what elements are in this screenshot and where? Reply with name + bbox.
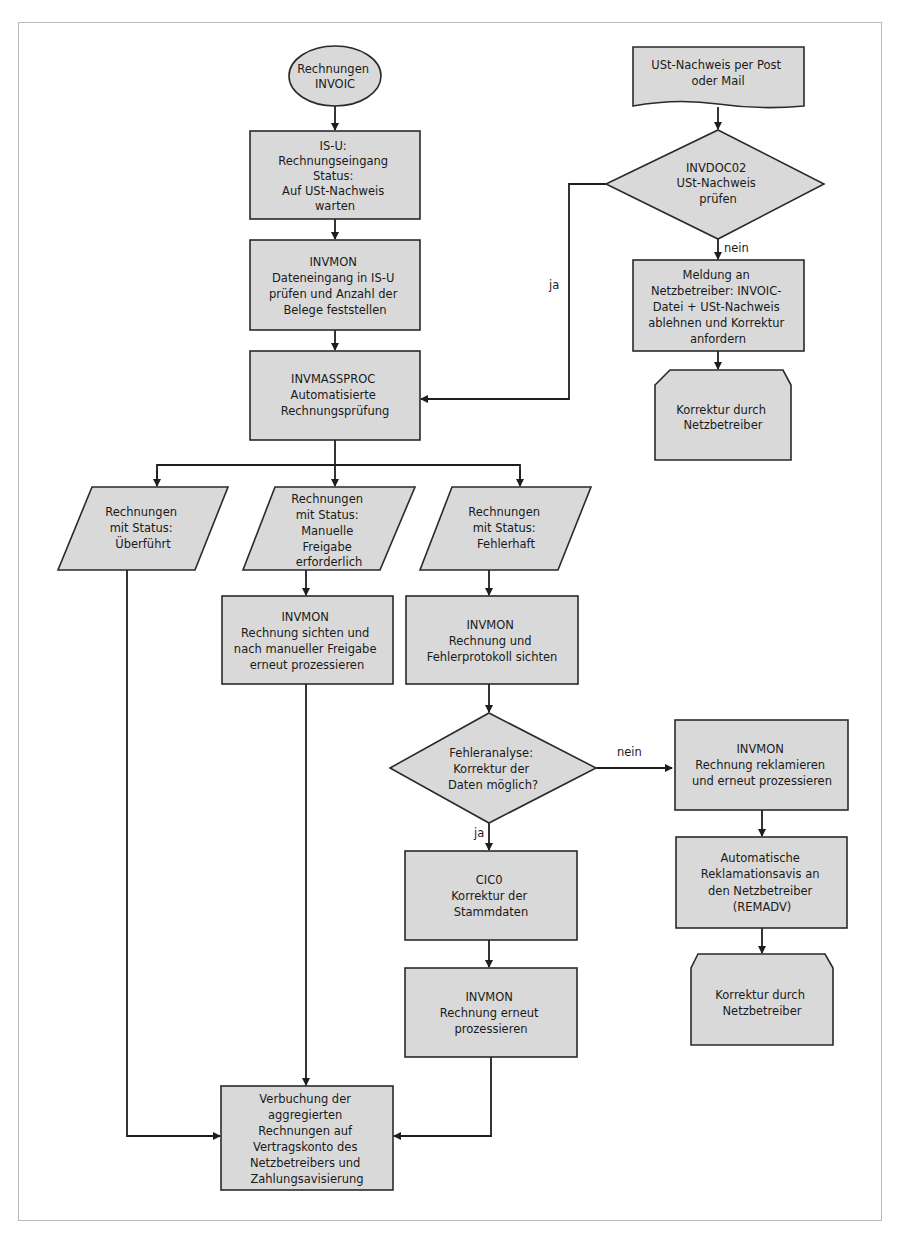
node-isu-eingang: IS-U: Rechnungseingang Status: Auf USt-N… — [250, 131, 420, 219]
node-ust-post: USt-Nachweis per Post oder Mail — [633, 47, 804, 108]
edge-label-nein: nein — [724, 241, 749, 255]
edge-ueberfuehrt-to-verbuchung — [127, 570, 220, 1136]
node-invmassproc: INVMASSPROC Automatisierte Rechnungsprüf… — [250, 351, 420, 440]
node-status-fehlerhaft: Rechnungen mit Status: Fehlerhaft — [420, 487, 591, 570]
edge-label-ja-2: ja — [473, 826, 484, 840]
edge-label-ja: ja — [548, 278, 559, 292]
node-cic0: CIC0 Korrektur der Stammdaten — [405, 851, 577, 940]
node-remadv: Automatische Reklamationsavis an den Net… — [676, 837, 847, 928]
node-invmon-reklam: INVMON Rechnung reklamieren und erneut p… — [675, 720, 848, 810]
node-fehleranalyse: Fehleranalyse: Korrektur der Daten mögli… — [390, 713, 596, 823]
svg-text:Rechnungen mit Status:: Rechnungen mit Status: Fehlerhaft — [468, 505, 543, 551]
edge-split-bar — [157, 465, 520, 486]
edge-label-nein-2: nein — [617, 745, 642, 759]
svg-text:Rechnungen mit Status:: Rechnungen mit Status: Überführt — [105, 505, 180, 551]
edge-invdoc02-ja — [421, 184, 606, 399]
node-invmon-erneut: INVMON Rechnung erneut prozessieren — [405, 968, 577, 1057]
svg-text:Rechnungen mit Status:: Rechnungen mit Status: Manuelle Freigabe… — [291, 492, 366, 569]
node-status-ueberfuehrt: Rechnungen mit Status: Überführt — [58, 487, 228, 570]
node-status-manuell: Rechnungen mit Status: Manuelle Freigabe… — [243, 487, 415, 570]
node-invmon-freigabe: INVMON Rechnung sichten und nach manuell… — [222, 596, 393, 684]
flowchart: ja nein nein ja Rechnungen INVOIC IS-U: … — [0, 0, 900, 1237]
node-verbuchung: Verbuchung der aggregierten Rechnungen a… — [221, 1086, 393, 1190]
node-korrektur-nb-2: Korrektur durch Netzbetreiber — [691, 954, 833, 1045]
node-invmon-fehler: INVMON Rechnung und Fehlerprotokoll sich… — [406, 596, 578, 684]
node-meldung: Meldung an Netzbetreiber: INVOIC- Datei … — [633, 260, 804, 351]
svg-text:INVMASSPROC Automatisier: INVMASSPROC Automatisierte Rechnungsprüf… — [281, 372, 390, 418]
node-invdoc02: INVDOC02 USt-Nachweis prüfen — [606, 130, 824, 239]
node-korrektur-nb-1: Korrektur durch Netzbetreiber — [655, 370, 791, 460]
node-invmon-check: INVMON Dateneingang in IS-U prüfen und A… — [250, 240, 420, 330]
svg-text:Fehleranalyse: Korrektur: Fehleranalyse: Korrektur der Daten mögli… — [448, 746, 538, 792]
edge-erneut-to-verbuchung — [394, 1057, 491, 1136]
node-start: Rechnungen INVOIC — [289, 46, 381, 106]
svg-text:Korrektur durch Netzbetr: Korrektur durch Netzbetreiber — [676, 403, 769, 432]
